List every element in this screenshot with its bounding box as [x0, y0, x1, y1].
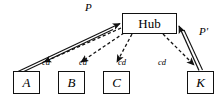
node-c-label: C	[112, 75, 121, 91]
node-k-label: K	[196, 75, 205, 91]
edge-a-to-hub-solid	[18, 24, 121, 75]
node-b[interactable]: B	[58, 71, 85, 94]
node-b-label: B	[68, 75, 76, 91]
edge-label-cd-c: cd	[118, 58, 126, 67]
node-a-label: A	[23, 75, 31, 91]
diagram-canvas: Hub A B C K P P' cd cd cd cd	[0, 0, 223, 97]
edge-label-p-prime: P'	[199, 26, 208, 37]
node-a[interactable]: A	[13, 71, 40, 94]
edge-label-cd-a: cd	[42, 58, 50, 67]
edge-label-p: P	[85, 2, 92, 13]
node-hub[interactable]: Hub	[122, 13, 177, 34]
edge-label-cd-k: cd	[158, 58, 166, 67]
node-c[interactable]: C	[103, 71, 130, 94]
node-k[interactable]: K	[187, 71, 214, 94]
node-hub-label: Hub	[138, 16, 160, 32]
edge-label-cd-b: cd	[79, 58, 87, 67]
